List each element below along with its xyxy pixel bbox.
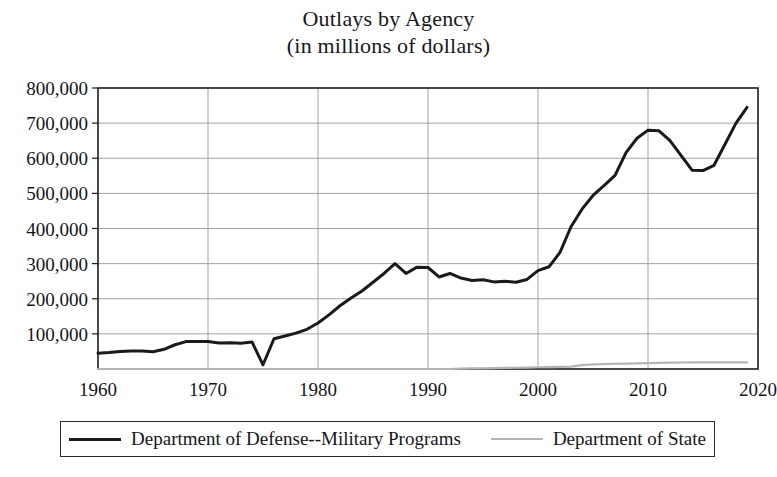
y-tick-label: 500,000 — [26, 183, 88, 204]
series-line-state — [98, 362, 747, 369]
x-axis-tick-labels: 1960197019801990200020102020 — [79, 379, 777, 400]
x-tick-label: 2010 — [629, 379, 667, 400]
y-tick-label: 700,000 — [26, 113, 88, 134]
y-tick-label: 400,000 — [26, 219, 88, 240]
legend-entry-dod: Department of Defense--Military Programs — [69, 428, 461, 450]
x-tick-label: 2020 — [739, 379, 777, 400]
chart-figure: Outlays by Agency (in millions of dollar… — [0, 0, 777, 477]
x-tick-label: 1980 — [299, 379, 337, 400]
legend-label-dod: Department of Defense--Military Programs — [131, 428, 461, 450]
line-chart-svg: 100,000200,000300,000400,000500,000600,0… — [0, 0, 777, 410]
y-tick-label: 200,000 — [26, 289, 88, 310]
series-line-dod — [98, 107, 747, 364]
legend-line-swatch-dod — [69, 438, 121, 441]
legend-label-state: Department of State — [553, 428, 706, 450]
y-tick-label: 100,000 — [26, 324, 88, 345]
y-tick-label: 800,000 — [26, 78, 88, 99]
x-tick-label: 1990 — [409, 379, 447, 400]
legend-line-swatch-state — [491, 438, 543, 440]
legend-entry-state: Department of State — [491, 428, 706, 450]
y-axis-tick-labels: 100,000200,000300,000400,000500,000600,0… — [26, 78, 98, 345]
plot-area-wrapper: 100,000200,000300,000400,000500,000600,0… — [0, 0, 777, 410]
chart-legend: Department of Defense--Military Programs… — [60, 421, 715, 457]
x-tick-label: 1960 — [79, 379, 117, 400]
x-tick-label: 2000 — [519, 379, 557, 400]
x-tick-label: 1970 — [189, 379, 227, 400]
y-tick-label: 600,000 — [26, 148, 88, 169]
y-tick-label: 300,000 — [26, 254, 88, 275]
data-series-group — [98, 107, 747, 369]
